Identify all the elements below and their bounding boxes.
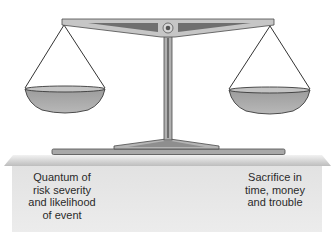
platform-top-face [4,155,331,166]
scale-post [164,36,172,140]
left-strings [25,25,105,88]
left-pan-label: Quantum of risk severity and likelihood … [12,171,112,221]
left-pan [25,86,105,113]
scale-base [52,139,285,155]
scale-beam [62,19,274,37]
right-strings [229,26,310,89]
right-pan [229,87,310,114]
right-pan-label: Sacrifice in time, money and trouble [225,171,325,209]
base-plate [52,149,285,155]
